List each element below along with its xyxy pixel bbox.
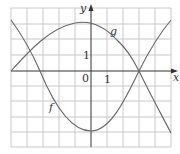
- graph-figure: y x 0 1 1 g f: [0, 0, 180, 154]
- axes: [11, 6, 176, 147]
- graph-svg: [0, 0, 180, 154]
- curve-label-g: g: [110, 26, 117, 37]
- y-tick-label-1: 1: [83, 50, 90, 61]
- x-tick-label-1: 1: [104, 74, 111, 85]
- y-axis-label: y: [80, 3, 86, 14]
- curve-label-f: f: [49, 102, 53, 113]
- x-axis-label: x: [173, 72, 179, 83]
- origin-label: 0: [82, 73, 89, 84]
